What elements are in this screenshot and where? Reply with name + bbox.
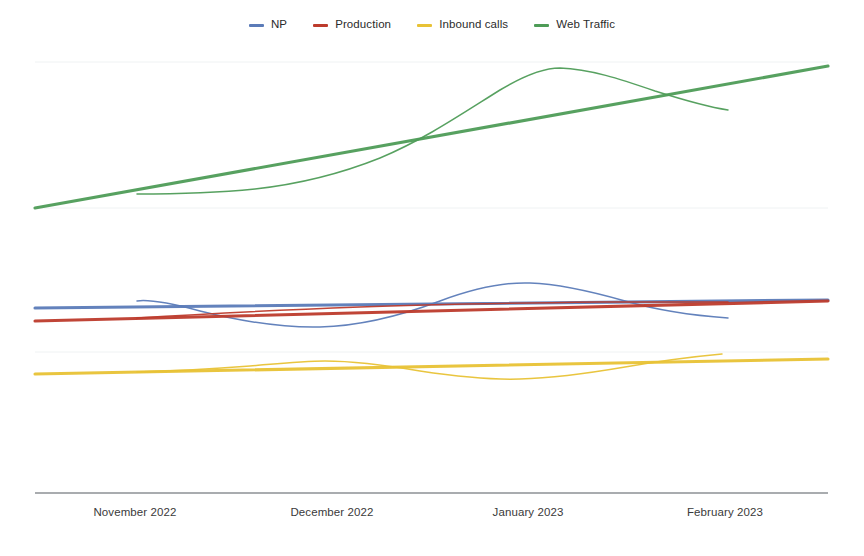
x-tick-february-2023: February 2023 (687, 506, 763, 518)
series-inbound_calls (35, 354, 828, 379)
plot-area (0, 0, 864, 556)
x-axis-tick-labels: November 2022 December 2022 January 2023… (0, 506, 864, 526)
series-lines (35, 66, 828, 379)
line-chart: NP Production Inbound calls Web Traffic … (0, 0, 864, 556)
trend-line-web_traffic (35, 66, 828, 208)
x-tick-november-2022: November 2022 (93, 506, 176, 518)
x-tick-december-2022: December 2022 (290, 506, 373, 518)
series-web_traffic (35, 66, 828, 208)
x-tick-january-2023: January 2023 (493, 506, 564, 518)
